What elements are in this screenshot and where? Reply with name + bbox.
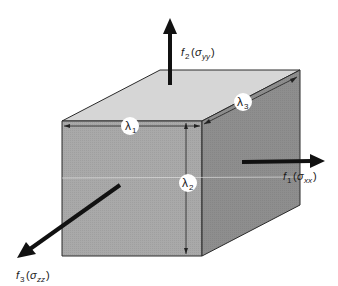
svg-text:2: 2 (189, 183, 194, 192)
svg-text:): ) (46, 269, 50, 281)
lambda2-label: λ 2 (179, 174, 197, 192)
svg-text:xx: xx (303, 176, 313, 185)
svg-text:λ: λ (125, 119, 131, 133)
svg-text:σ: σ (297, 170, 304, 182)
svg-text:zz: zz (36, 275, 45, 284)
svg-text:1: 1 (287, 176, 292, 185)
f3-label: f 3 ( σ zz ) (16, 269, 50, 284)
lambda1-label: λ 1 (121, 117, 139, 135)
lambda3-label: λ 3 (234, 93, 252, 111)
svg-text:λ: λ (237, 95, 243, 109)
svg-text:3: 3 (244, 102, 249, 111)
svg-text:2: 2 (185, 52, 190, 61)
svg-text:σ: σ (195, 46, 202, 58)
svg-text:): ) (313, 170, 317, 182)
svg-text:3: 3 (20, 275, 25, 284)
svg-text:yy: yy (201, 52, 211, 61)
svg-text:): ) (211, 46, 215, 58)
svg-text:1: 1 (132, 126, 137, 135)
svg-text:λ: λ (182, 176, 188, 190)
f2-label: f 2 ( σ yy ) (181, 46, 215, 61)
svg-text:σ: σ (30, 269, 37, 281)
stress-cube-diagram: λ 1 λ 2 λ 3 f 2 ( σ yy ) f 1 ( σ xx ) (0, 0, 338, 286)
